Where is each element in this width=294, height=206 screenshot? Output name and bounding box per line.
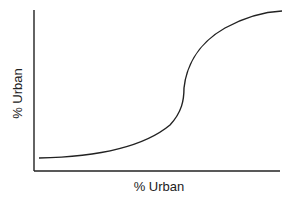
data-curve: [39, 11, 282, 158]
x-axis-label: % Urban: [0, 179, 294, 194]
chart-plot: [0, 0, 294, 206]
y-axis-label: % Urban: [10, 49, 25, 139]
